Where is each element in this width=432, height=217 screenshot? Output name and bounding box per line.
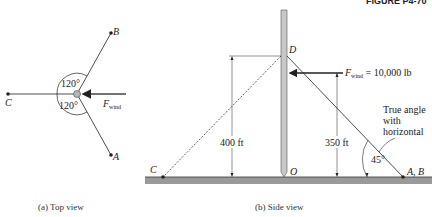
angle-lower-label: 120°	[59, 100, 78, 111]
note-line1: True angle	[383, 104, 426, 115]
label-b-top: B	[113, 26, 119, 37]
caption-top-view: (a) Top view	[38, 202, 84, 212]
label-c-side: C	[150, 164, 157, 175]
label-c-top: C	[5, 97, 12, 108]
label-o: O	[290, 166, 297, 177]
figure-label: FIGURE P4-70	[366, 0, 427, 6]
cable-b-top	[77, 33, 111, 94]
force-wind-top: Fwind	[102, 98, 121, 110]
note-leader	[379, 138, 395, 152]
label-350ft: 350 ft	[325, 137, 349, 148]
angle-arc-45	[362, 140, 368, 177]
force-wind-side: Fwind = 10,000 lb	[344, 67, 412, 79]
cable-d-c	[163, 56, 281, 177]
diagram-canvas: FIGURE P4-70 B C A 120° 120° Fwind (a) T…	[0, 0, 432, 217]
point-c-side	[161, 175, 165, 179]
point-c-top	[6, 92, 10, 96]
label-a-top: A	[112, 151, 120, 162]
note-line3: horizontal	[383, 126, 424, 137]
pole	[281, 10, 287, 177]
top-view: B C A 120° 120° Fwind (a) Top view	[5, 26, 126, 212]
angle-45-label: 45°	[371, 154, 385, 165]
angle-upper-label: 120°	[61, 78, 80, 89]
label-ab: A, B	[406, 166, 424, 177]
pole-top-view	[74, 91, 81, 98]
caption-side-view: (b) Side view	[255, 202, 304, 212]
point-ab-side	[401, 175, 405, 179]
side-view: 400 ft 350 ft Fwind = 10,000 lb 45° True…	[145, 10, 432, 212]
label-400ft: 400 ft	[220, 137, 244, 148]
note-line2: with	[383, 115, 401, 126]
ground	[145, 177, 432, 184]
label-d: D	[288, 44, 297, 55]
